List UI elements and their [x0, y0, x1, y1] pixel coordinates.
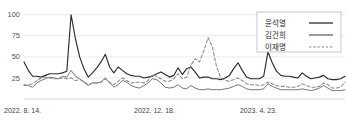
y-axis-tick-label: 75 — [12, 31, 20, 40]
x-axis-tick-label: 2022. 12. 18. — [134, 107, 175, 114]
chart-plot-area: 2550751002022. 8. 14.2022. 12. 18.2023. … — [0, 0, 347, 124]
y-axis-tick-label: 50 — [12, 52, 20, 61]
legend-label-1: 윤석열 — [265, 18, 286, 28]
line-chart: 2550751002022. 8. 14.2022. 12. 18.2023. … — [0, 0, 347, 124]
legend-label-3: 이재명 — [265, 42, 286, 52]
y-axis-tick-label: 100 — [7, 10, 20, 19]
y-axis-tick-label: 25 — [12, 74, 20, 83]
legend-label-2: 김건희 — [265, 30, 286, 40]
x-axis-tick-label: 2023. 4. 23. — [240, 107, 277, 114]
series-line-2 — [24, 70, 345, 90]
x-axis-tick-label: 2022. 8. 14. — [4, 107, 41, 114]
